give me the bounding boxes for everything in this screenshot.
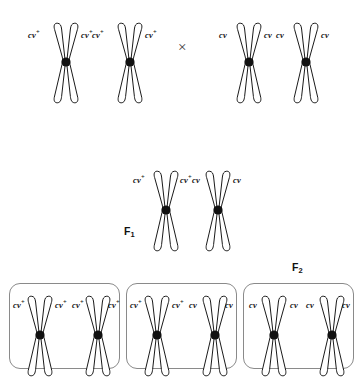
centromere-dot (152, 330, 161, 339)
allele-label-f1-c1-right: cv+ (180, 175, 192, 185)
allele-label-parent-right-c1-right: cv (264, 30, 272, 40)
allele-label-f2-b1-c2-right: cv+ (108, 300, 120, 310)
f2-box2-chromosome-1 (144, 293, 170, 379)
allele-label-f2-b2-c1-left: cv+ (130, 300, 142, 310)
f2-box1-chromosome-1 (27, 293, 53, 379)
centromere-dot (210, 330, 219, 339)
centromere-dot (93, 330, 102, 339)
allele-label-parent-left-c1-left: cv+ (28, 30, 40, 40)
allele-label-parent-left-c2-left: cv+ (92, 30, 104, 40)
allele-label-f1-c2-left: cv (192, 175, 200, 185)
parent-right-chromosome-1 (236, 20, 262, 106)
allele-label-f2-b3-c1-left: cv (249, 300, 257, 310)
allele-label-parent-right-c1-left: cv (219, 30, 227, 40)
cross-symbol: × (178, 40, 186, 55)
centromere-dot (161, 205, 170, 214)
parent-right-chromosome-2 (293, 20, 319, 106)
allele-label-f2-b2-c1-right: cv+ (172, 300, 184, 310)
centromere-dot (213, 205, 222, 214)
f2-box3-chromosome-1 (261, 293, 287, 379)
allele-label-f2-b1-c2-left: cv+ (72, 300, 84, 310)
allele-label-f2-b3-c1-right: cv (290, 300, 298, 310)
chromosome-cross-figure: cv+ cv+ cv+ cv+ × cv cv (0, 0, 363, 379)
f2-generation-label: F2 (292, 261, 303, 273)
allele-label-f1-c2-right: cv (233, 175, 241, 185)
centromere-dot (125, 57, 134, 66)
allele-label-f2-b2-c2-right: cv (225, 300, 233, 310)
allele-label-parent-right-c2-right: cv (321, 30, 329, 40)
parent-left-chromosome-2 (117, 20, 143, 106)
allele-label-f2-b2-c2-left: cv (189, 300, 197, 310)
centromere-dot (61, 57, 70, 66)
allele-label-f2-b1-c1-right: cv+ (55, 300, 67, 310)
allele-label-f2-b3-c2-right: cv (342, 300, 350, 310)
allele-label-parent-left-c2-right: cv+ (145, 30, 157, 40)
f1-chromosome-1 (153, 168, 179, 254)
allele-label-f2-b3-c2-left: cv (306, 300, 314, 310)
centromere-dot (327, 330, 336, 339)
centromere-dot (301, 57, 310, 66)
f1-generation-label: F1 (124, 225, 135, 237)
centromere-dot (269, 330, 278, 339)
parent-left-chromosome-1 (53, 20, 79, 106)
centromere-dot (244, 57, 253, 66)
allele-label-f2-b1-c1-left: cv+ (13, 300, 25, 310)
allele-label-f1-c1-left: cv+ (133, 175, 145, 185)
f1-chromosome-2 (205, 168, 231, 254)
centromere-dot (35, 330, 44, 339)
allele-label-parent-right-c2-left: cv (276, 30, 284, 40)
